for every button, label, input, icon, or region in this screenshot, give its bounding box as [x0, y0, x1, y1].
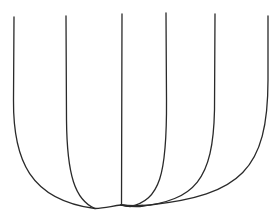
curve-family-diagram — [0, 0, 277, 216]
diagram-background — [0, 0, 277, 216]
